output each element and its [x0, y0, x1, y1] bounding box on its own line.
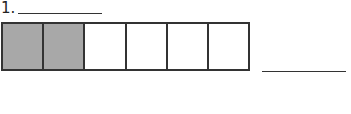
fraction-cell-unshaded: [168, 24, 209, 69]
fraction-cell-unshaded: [85, 24, 126, 69]
question-number: 1.: [1, 0, 15, 16]
answer-blank-line: [262, 71, 346, 72]
fraction-bar: [1, 22, 250, 71]
fraction-cell-shaded: [44, 24, 85, 69]
fraction-cell-unshaded: [209, 24, 248, 69]
fraction-cell-unshaded: [127, 24, 168, 69]
fraction-cell-shaded: [3, 24, 44, 69]
name-blank-line: [18, 13, 102, 14]
